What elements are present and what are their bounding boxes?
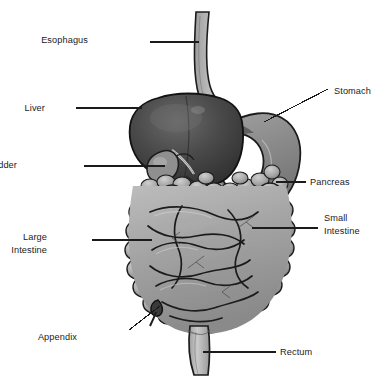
rectum-organ xyxy=(188,326,210,375)
label-appendix-line-0: Appendix xyxy=(38,331,77,344)
label-appendix: Appendix xyxy=(38,331,77,344)
label-esophagus-line-0: Esophagus xyxy=(41,34,88,47)
digestive-system-figure: EsophagusLiverGallbladderLargeIntestineA… xyxy=(0,0,388,383)
label-stomach: Stomach xyxy=(334,85,371,98)
leader-line-stomach xyxy=(264,89,328,122)
label-rectum: Rectum xyxy=(280,346,312,359)
label-esophagus: Esophagus xyxy=(41,34,88,47)
label-large-intestine-line-1: Intestine xyxy=(11,244,47,257)
leader-line-appendix xyxy=(129,306,160,330)
label-stomach-line-0: Stomach xyxy=(334,85,371,98)
label-small-intestine-line-0: Small xyxy=(324,212,360,225)
label-pancreas-line-0: Pancreas xyxy=(310,176,350,189)
label-small-intestine-line-1: Intestine xyxy=(324,225,360,238)
label-gallbladder: Gallbladder xyxy=(0,159,17,172)
label-large-intestine-line-0: Large xyxy=(11,231,47,244)
label-large-intestine: LargeIntestine xyxy=(11,231,47,256)
anatomy-illustration xyxy=(0,0,388,383)
label-liver-line-0: Liver xyxy=(25,102,45,115)
label-pancreas: Pancreas xyxy=(310,176,350,189)
label-liver: Liver xyxy=(25,102,45,115)
label-small-intestine: SmallIntestine xyxy=(324,212,360,237)
label-gallbladder-line-0: Gallbladder xyxy=(0,159,17,172)
label-rectum-line-0: Rectum xyxy=(280,346,312,359)
